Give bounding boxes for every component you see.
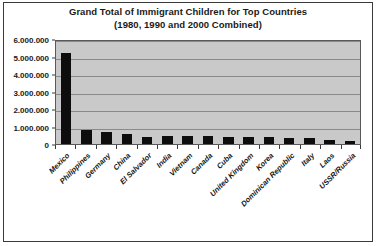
x-axis-label-cell: USSR/Russia	[341, 149, 361, 239]
chart-title-line-1: Grand Total of Immigrant Children for To…	[4, 6, 372, 19]
bar[interactable]	[264, 137, 275, 144]
bar[interactable]	[304, 138, 315, 144]
x-axis-label-cell: India	[157, 149, 177, 239]
bar-slot	[56, 41, 76, 144]
bar[interactable]	[203, 136, 214, 144]
bar-slot	[279, 41, 299, 144]
chart-frame: Grand Total of Immigrant Children for To…	[3, 2, 373, 242]
x-axis-label: Italy	[299, 151, 316, 168]
bar-slot	[299, 41, 319, 144]
bar[interactable]	[182, 136, 193, 144]
bar-slot	[238, 41, 258, 144]
bar-slot	[137, 41, 157, 144]
bar[interactable]	[142, 137, 153, 144]
bar-series	[56, 41, 360, 144]
bar-slot	[319, 41, 339, 144]
bar-slot	[117, 41, 137, 144]
bar-slot	[97, 41, 117, 144]
y-axis-tick-label: 4.000.000	[13, 71, 49, 80]
y-axis-tick-label: 1.000.000	[13, 123, 49, 132]
bar-slot	[259, 41, 279, 144]
y-axis-tick-label: 0	[45, 141, 49, 150]
bar[interactable]	[162, 136, 173, 144]
bar-slot	[76, 41, 96, 144]
bar[interactable]	[324, 140, 335, 144]
bar-slot	[178, 41, 198, 144]
chart-title: Grand Total of Immigrant Children for To…	[4, 6, 372, 31]
bar[interactable]	[284, 138, 295, 144]
y-axis-tick-label: 6.000.000	[13, 36, 49, 45]
bar[interactable]	[345, 141, 356, 144]
x-axis-label-cell: Korea	[259, 149, 279, 239]
x-axis-label-cell: Dominican Republic	[279, 149, 299, 239]
y-axis: 01.000.0002.000.0003.000.0004.000.0005.0…	[4, 40, 52, 145]
y-axis-tick-label: 5.000.000	[13, 53, 49, 62]
bar[interactable]	[61, 53, 72, 144]
y-axis-tick-label: 2.000.000	[13, 106, 49, 115]
y-axis-tick-label: 3.000.000	[13, 88, 49, 97]
bar-slot	[157, 41, 177, 144]
bar[interactable]	[223, 137, 234, 144]
bar-slot	[198, 41, 218, 144]
bar[interactable]	[122, 134, 133, 144]
plot-area	[55, 40, 361, 145]
bar-slot	[340, 41, 360, 144]
bar[interactable]	[101, 132, 112, 144]
bar[interactable]	[81, 130, 92, 144]
x-axis-labels: MexicoPhilippinesGermanyChinaEl Salvador…	[55, 149, 361, 239]
bar-slot	[218, 41, 238, 144]
x-axis-label-cell: Mexico	[55, 149, 75, 239]
chart-title-line-2: (1980, 1990 and 2000 Combined)	[4, 19, 372, 32]
bar[interactable]	[243, 137, 254, 144]
